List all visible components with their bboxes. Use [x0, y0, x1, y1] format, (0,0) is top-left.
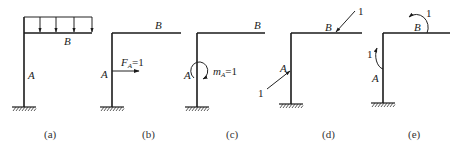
label-A: A: [27, 69, 35, 81]
label-B: B: [325, 21, 332, 33]
label-B: B: [155, 19, 162, 31]
force-arrow-B-icon: [336, 11, 355, 32]
caption-e: (e): [408, 128, 421, 141]
fixed-support-icon: [100, 107, 124, 111]
label-B: B: [254, 19, 261, 31]
panel-a: B A (a): [12, 17, 92, 141]
distributed-load: [24, 17, 92, 32]
structural-frames-diagram: B A (a) B A FA=1 (b) B A mA=1 (c) B: [0, 0, 458, 149]
moment-A-value: 1: [367, 48, 373, 60]
label-B: B: [64, 35, 71, 47]
label-A: A: [371, 72, 379, 84]
moment-label: mA=1: [213, 65, 237, 79]
moment-arrow-A-icon: [376, 48, 383, 69]
caption-d: (d): [322, 128, 335, 141]
fixed-support-icon: [371, 103, 395, 107]
caption-a: (a): [44, 128, 57, 141]
label-A: A: [183, 69, 191, 81]
label-A: A: [279, 62, 287, 74]
fixed-support-icon: [279, 104, 303, 108]
label-A: A: [100, 68, 108, 80]
caption-c: (c): [226, 128, 239, 141]
panel-d: B A 1 1 (d): [258, 5, 364, 141]
panel-e: B A 1 1 (e): [367, 7, 450, 141]
fixed-support-icon: [185, 107, 209, 111]
force-A-value: 1: [258, 87, 264, 99]
label-B: B: [414, 21, 421, 33]
fixed-support-icon: [12, 107, 36, 111]
panel-c: B A mA=1 (c): [183, 19, 265, 141]
force-label: FA=1: [120, 56, 144, 70]
panel-b: B A FA=1 (b): [100, 19, 181, 141]
force-B-value: 1: [358, 5, 364, 17]
caption-b: (b): [142, 128, 155, 141]
moment-arrow-icon: [191, 62, 208, 79]
moment-B-value: 1: [426, 7, 432, 19]
